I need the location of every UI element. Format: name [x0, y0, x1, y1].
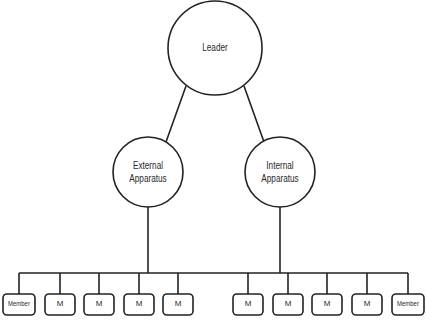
member-label: M [124, 294, 154, 314]
leader-label: Leader [182, 41, 248, 54]
member-label: M [84, 294, 114, 314]
member-label: Member [5, 294, 32, 314]
external-apparatus-label: External Apparatus [115, 159, 181, 185]
member-label: M [163, 294, 193, 314]
external-apparatus-line2: Apparatus [115, 172, 181, 185]
member-drop-lines [19, 273, 408, 294]
member-label: M [233, 294, 263, 314]
member-label: M [312, 294, 342, 314]
member-label: M [273, 294, 303, 314]
member-label: Member [394, 294, 421, 314]
member-label: M [352, 294, 382, 314]
member-label: M [45, 294, 75, 314]
external-apparatus-line1: External [115, 159, 181, 172]
internal-apparatus-line1: Internal [247, 159, 313, 172]
connector-leader-external [166, 86, 186, 142]
internal-apparatus-label: Internal Apparatus [247, 159, 313, 185]
connector-leader-internal [244, 86, 264, 142]
internal-apparatus-line2: Apparatus [247, 172, 313, 185]
